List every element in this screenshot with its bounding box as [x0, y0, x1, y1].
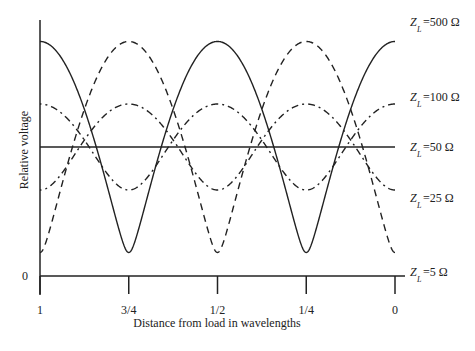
y-tick-label-0: 0 [22, 269, 28, 283]
legend-subscript: L [416, 201, 422, 210]
legend-symbol: Z [410, 265, 417, 279]
legend-symbol: Z [410, 191, 417, 205]
legend-item-100-ohm: ZL=100 Ω [410, 90, 460, 109]
legend-value: =50 Ω [423, 140, 454, 154]
legend-value: =500 Ω [423, 15, 460, 29]
legend-symbol: Z [410, 140, 417, 154]
legend-item-25-ohm: ZL=25 Ω [410, 191, 454, 210]
x-tick-label: 1 [37, 303, 43, 317]
y-axis-label: Relative voltage [17, 111, 31, 189]
x-tick-label: 1/2 [210, 303, 225, 317]
legend-subscript: L [416, 275, 422, 284]
legend-subscript: L [416, 25, 422, 34]
legend: ZL=500 ΩZL=100 ΩZL=50 ΩZL=25 ΩZL=5 Ω [410, 15, 460, 284]
x-axis-label: Distance from load in wavelengths [133, 316, 301, 330]
legend-symbol: Z [410, 90, 417, 104]
x-tick-label: 1/4 [299, 303, 314, 317]
legend-subscript: L [416, 150, 422, 159]
legend-subscript: L [416, 100, 422, 109]
standing-wave-chart: 13/41/21/40 0 Distance from load in wave… [0, 0, 475, 351]
plot-lines [40, 41, 395, 252]
x-tick-label: 3/4 [121, 303, 136, 317]
x-tick-label: 0 [392, 303, 398, 317]
legend-value: =25 Ω [423, 191, 454, 205]
legend-item-5-ohm: ZL=5 Ω [410, 265, 448, 284]
x-ticks: 13/41/21/40 [37, 276, 398, 317]
legend-value: =100 Ω [423, 90, 460, 104]
legend-item-500-ohm: ZL=500 Ω [410, 15, 460, 34]
legend-symbol: Z [410, 15, 417, 29]
legend-value: =5 Ω [423, 265, 448, 279]
legend-item-50-ohm: ZL=50 Ω [410, 140, 454, 159]
